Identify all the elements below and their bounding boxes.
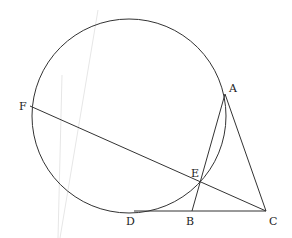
label-a: A xyxy=(228,82,238,95)
background-artifact-line xyxy=(58,75,62,238)
segment-ac xyxy=(225,94,266,211)
label-e: E xyxy=(191,167,199,180)
segment-fc xyxy=(30,106,266,211)
label-f: F xyxy=(19,100,27,113)
label-d: D xyxy=(126,215,135,228)
label-b: B xyxy=(186,215,194,228)
geometry-diagram: A B C D E F xyxy=(0,0,292,238)
label-c: C xyxy=(269,215,277,228)
segment-ab xyxy=(192,94,225,211)
background-artifact-line xyxy=(60,10,98,238)
